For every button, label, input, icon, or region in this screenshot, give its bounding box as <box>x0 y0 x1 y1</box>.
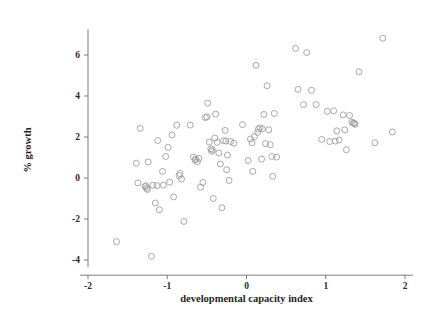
data-point <box>171 194 177 200</box>
data-point <box>224 167 230 173</box>
data-point <box>216 150 222 156</box>
data-point <box>200 180 206 186</box>
data-point <box>308 87 314 93</box>
data-point <box>301 102 307 108</box>
data-point <box>213 111 219 117</box>
data-point <box>169 132 175 138</box>
data-point <box>137 125 143 131</box>
x-tick-label: 0 <box>244 281 249 291</box>
data-point <box>343 147 349 153</box>
data-point <box>133 160 139 166</box>
y-tick-label: -4 <box>72 255 80 265</box>
y-axis-title: % growth <box>22 127 33 172</box>
data-point <box>165 144 171 150</box>
plot-canvas: 6420-2-4-2-1012developmental capacity in… <box>0 0 428 309</box>
data-point <box>347 112 353 118</box>
data-point <box>250 168 256 174</box>
data-point <box>295 86 301 92</box>
data-point <box>210 196 216 202</box>
data-point <box>163 153 169 159</box>
data-point <box>240 122 246 128</box>
data-point <box>148 253 154 259</box>
data-point <box>319 136 325 142</box>
data-point <box>217 161 223 167</box>
x-tick-label: 2 <box>403 281 408 291</box>
y-tick-label: -2 <box>72 214 80 224</box>
x-tick-label: 1 <box>323 281 328 291</box>
data-point <box>389 129 395 135</box>
data-point <box>259 156 265 162</box>
y-tick-label: 0 <box>75 173 80 183</box>
data-point <box>152 200 158 206</box>
data-point <box>342 127 348 133</box>
data-point <box>332 138 338 144</box>
x-tick-label: -1 <box>163 281 171 291</box>
data-point <box>174 122 180 128</box>
data-point <box>334 128 340 134</box>
data-point <box>187 122 193 128</box>
data-point <box>336 137 342 143</box>
data-point <box>206 139 212 145</box>
data-point <box>135 180 141 186</box>
data-point <box>264 83 270 89</box>
axis-labels-group: 6420-2-4-2-1012developmental capacity in… <box>22 50 408 304</box>
data-point <box>156 207 162 213</box>
data-point <box>222 127 228 133</box>
data-point <box>155 137 161 143</box>
data-point <box>271 110 277 116</box>
data-point <box>145 159 151 165</box>
data-point <box>160 182 166 188</box>
data-point <box>356 69 362 75</box>
data-point <box>154 183 160 189</box>
data-point <box>177 170 183 176</box>
data-point <box>380 35 386 41</box>
y-tick-label: 2 <box>75 132 80 142</box>
x-tick-label: -2 <box>84 281 92 291</box>
x-axis-title: developmental capacity index <box>180 293 313 304</box>
data-point <box>226 177 232 183</box>
data-point <box>219 205 225 211</box>
scatter-plot-figure: 6420-2-4-2-1012developmental capacity in… <box>0 0 428 309</box>
data-point <box>270 173 276 179</box>
data-point <box>331 108 337 114</box>
data-point <box>249 140 255 146</box>
axes-group <box>80 29 413 279</box>
data-point <box>253 62 259 68</box>
y-tick-label: 4 <box>75 91 80 101</box>
data-point <box>160 168 166 174</box>
data-point <box>266 127 272 133</box>
data-point <box>340 112 346 118</box>
data-point <box>167 179 173 185</box>
data-point <box>114 239 120 245</box>
data-point <box>261 111 267 117</box>
data-point <box>205 100 211 106</box>
data-point <box>181 218 187 224</box>
data-point <box>372 140 378 146</box>
y-tick-label: 6 <box>75 50 80 60</box>
data-point <box>224 152 230 158</box>
data-point <box>245 158 251 164</box>
data-point <box>293 45 299 51</box>
data-point <box>313 102 319 108</box>
data-point <box>324 108 330 114</box>
data-point <box>304 50 310 56</box>
data-points-group <box>114 35 396 259</box>
data-point <box>327 139 333 145</box>
